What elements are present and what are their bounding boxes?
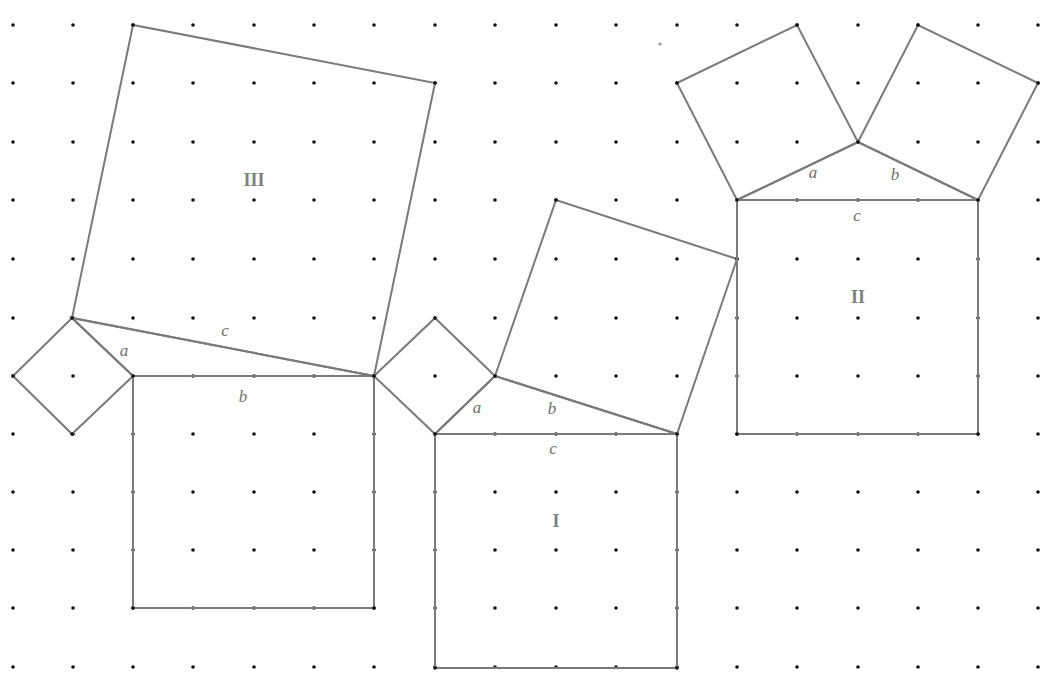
grid-dot bbox=[191, 316, 195, 320]
grid-dot bbox=[191, 432, 195, 436]
vertex-dot bbox=[856, 140, 860, 144]
grid-dot bbox=[614, 198, 618, 202]
grid-dot bbox=[252, 81, 256, 85]
grid-dot bbox=[252, 665, 256, 669]
vertex-dot bbox=[372, 374, 376, 378]
grid-dot bbox=[11, 198, 15, 202]
grid-dot bbox=[71, 490, 75, 494]
grid-dot bbox=[795, 140, 799, 144]
vertex-dot bbox=[675, 432, 679, 436]
grid-dot bbox=[131, 665, 135, 669]
vertex-dot bbox=[70, 432, 74, 436]
grid-dot bbox=[675, 374, 679, 378]
grid-dot bbox=[433, 374, 437, 378]
grid-dot bbox=[675, 198, 679, 202]
grid-dot bbox=[856, 316, 860, 320]
grid-dot bbox=[614, 23, 618, 27]
side-label-b: b bbox=[891, 165, 900, 184]
grid-dot bbox=[916, 257, 920, 261]
grid-dot bbox=[433, 140, 437, 144]
grid-dot bbox=[131, 140, 135, 144]
grid-dot bbox=[372, 257, 376, 261]
grid-dot bbox=[735, 81, 739, 85]
grid-dot bbox=[614, 316, 618, 320]
vertex-dot bbox=[1036, 81, 1040, 85]
grid-dot bbox=[795, 316, 799, 320]
vertex-dot bbox=[735, 198, 739, 202]
grid-dot bbox=[614, 81, 618, 85]
grid-dot bbox=[735, 665, 739, 669]
grid-dot bbox=[856, 490, 860, 494]
grid-dot bbox=[614, 140, 618, 144]
grid-dot bbox=[795, 374, 799, 378]
grid-dot bbox=[856, 548, 860, 552]
vertex-dot bbox=[493, 374, 497, 378]
grid-dot bbox=[252, 316, 256, 320]
grid-dot bbox=[916, 316, 920, 320]
grid-dot bbox=[191, 81, 195, 85]
grid-dot bbox=[71, 606, 75, 610]
vertex-dot bbox=[675, 666, 679, 670]
grid-dot bbox=[795, 257, 799, 261]
grid-dot bbox=[11, 490, 15, 494]
side-label-c: c bbox=[549, 439, 557, 458]
vertex-dot bbox=[675, 81, 679, 85]
grid-dot bbox=[11, 23, 15, 27]
grid-dot bbox=[312, 548, 316, 552]
grid-dot bbox=[1036, 374, 1040, 378]
grid-dot bbox=[795, 606, 799, 610]
grid-dot bbox=[614, 490, 618, 494]
grid-dot bbox=[372, 81, 376, 85]
grid-dot bbox=[735, 548, 739, 552]
grid-dot bbox=[493, 257, 497, 261]
grid-dot bbox=[312, 257, 316, 261]
grid-dot bbox=[795, 665, 799, 669]
grid-dot bbox=[614, 257, 618, 261]
grid-dot bbox=[1036, 665, 1040, 669]
grid-dot bbox=[795, 548, 799, 552]
grid-dot bbox=[11, 606, 15, 610]
grid-dot bbox=[71, 257, 75, 261]
vertex-dot bbox=[372, 606, 376, 610]
vertex-dot bbox=[131, 606, 135, 610]
grid-dot bbox=[252, 490, 256, 494]
grid-dot bbox=[71, 548, 75, 552]
vertex-dot bbox=[11, 374, 15, 378]
grid-dot bbox=[976, 140, 980, 144]
square-on-side-a bbox=[677, 25, 858, 200]
grid-dot bbox=[252, 548, 256, 552]
stray-marks bbox=[658, 42, 661, 45]
grid-dot bbox=[554, 140, 558, 144]
grid-dot bbox=[252, 432, 256, 436]
grid-dot bbox=[795, 81, 799, 85]
grid-dot bbox=[252, 257, 256, 261]
figure-ii: IIabc bbox=[675, 23, 1040, 436]
grid-dot bbox=[554, 548, 558, 552]
grid-dot bbox=[1036, 606, 1040, 610]
grid-dot bbox=[433, 198, 437, 202]
grid-dot bbox=[916, 665, 920, 669]
grid-dot bbox=[976, 490, 980, 494]
grid-dot bbox=[554, 23, 558, 27]
grid-dot bbox=[11, 548, 15, 552]
grid-dot bbox=[493, 198, 497, 202]
vertex-dot bbox=[131, 374, 135, 378]
grid-dot bbox=[735, 23, 739, 27]
grid-dot bbox=[1036, 432, 1040, 436]
figure-iii: IIIabc bbox=[11, 23, 437, 610]
grid-dot bbox=[312, 81, 316, 85]
grid-dot bbox=[1036, 257, 1040, 261]
stray-mark bbox=[658, 42, 661, 45]
dot-grid bbox=[11, 23, 1040, 669]
grid-dot bbox=[916, 140, 920, 144]
grid-dot bbox=[191, 23, 195, 27]
grid-dot bbox=[976, 81, 980, 85]
grid-dot bbox=[71, 140, 75, 144]
grid-dot bbox=[131, 198, 135, 202]
grid-dot bbox=[795, 490, 799, 494]
grid-dot bbox=[11, 665, 15, 669]
grid-dot bbox=[916, 81, 920, 85]
grid-dot bbox=[71, 81, 75, 85]
grid-dot bbox=[372, 23, 376, 27]
grid-dot bbox=[916, 548, 920, 552]
